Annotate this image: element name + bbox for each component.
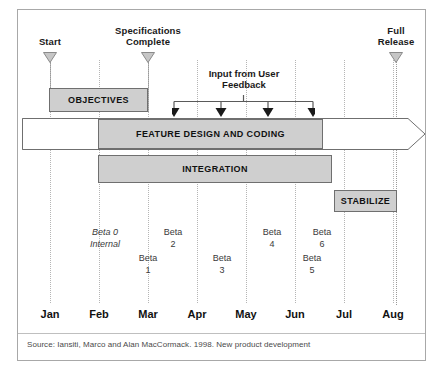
beta-label-3-line1: Beta <box>182 252 262 264</box>
source-note: Source: Iansiti, Marco and Alan MacCorma… <box>27 340 310 349</box>
gridline-aug <box>393 60 395 303</box>
beta-label-6: Beta6 <box>282 226 362 250</box>
month-label-may: May <box>226 308 266 320</box>
milestone-full-release-label-line2: Release <box>356 36 436 47</box>
month-label-apr: Apr <box>177 308 217 320</box>
beta-label-1-line1: Beta <box>108 252 188 264</box>
start-triangle-icon <box>43 52 57 62</box>
month-label-feb: Feb <box>79 308 119 320</box>
beta-label-5-line2: 5 <box>272 264 352 276</box>
beta-label-2: Beta2 <box>133 226 213 250</box>
beta-label-3-line2: 3 <box>182 264 262 276</box>
beta-label-3: Beta3 <box>182 252 262 276</box>
figure-canvas: Start Specifications Complete Full Relea… <box>0 0 443 374</box>
milestone-start-label: Start <box>20 36 80 47</box>
feedback-label-line1: Input from User Feedback <box>188 68 300 90</box>
beta-label-2-line2: 2 <box>133 238 213 250</box>
bar-feature-design-and-coding: FEATURE DESIGN AND CODING <box>98 119 323 149</box>
full-release-triangle-icon <box>389 52 403 62</box>
milestone-spec-label-line1: Specifications <box>104 25 192 36</box>
beta-label-1-line2: 1 <box>108 264 188 276</box>
beta-label-5-line1: Beta <box>272 252 352 264</box>
beta-label-5: Beta5 <box>272 252 352 276</box>
milestone-full-release-label-line1: Full <box>356 25 436 36</box>
month-label-jun: Jun <box>275 308 315 320</box>
feedback-bracket-icon <box>172 95 315 119</box>
beta-label-2-line1: Beta <box>133 226 213 238</box>
specifications-complete-triangle-icon <box>141 52 155 62</box>
bar-objectives: OBJECTIVES <box>49 88 148 112</box>
month-label-jan: Jan <box>30 308 70 320</box>
source-divider <box>18 333 425 334</box>
leader-specifications-complete <box>148 62 150 112</box>
feedback-line1-text: Input from User <box>209 68 280 79</box>
month-label-jul: Jul <box>324 308 364 320</box>
month-label-aug: Aug <box>373 308 413 320</box>
month-label-mar: Mar <box>128 308 168 320</box>
leader-full-release <box>396 62 398 305</box>
beta-label-1: Beta1 <box>108 252 188 276</box>
feedback-line2-text: Feedback <box>222 79 266 90</box>
beta-label-6-line2: 6 <box>282 238 362 250</box>
milestone-spec-label-line2: Complete <box>104 36 192 47</box>
bar-integration: INTEGRATION <box>98 155 332 183</box>
bar-stabilize: STABILIZE <box>334 190 397 212</box>
beta-label-6-line1: Beta <box>282 226 362 238</box>
